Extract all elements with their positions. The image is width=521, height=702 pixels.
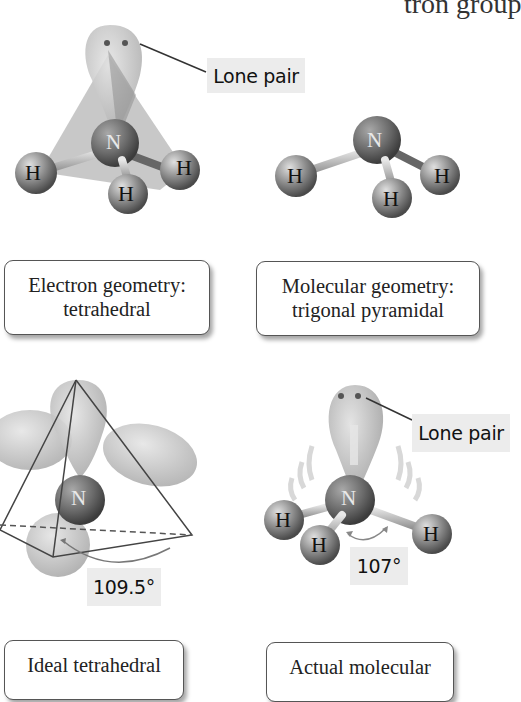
caption-electron-geometry: Electron geometry: tetrahedral xyxy=(4,260,210,335)
atom-label-h: H xyxy=(434,163,450,189)
atom-label-h: H xyxy=(383,186,399,212)
lone-pair-label: Lone pair xyxy=(207,58,305,93)
atom-label-h: H xyxy=(176,155,192,181)
bond-angle-label: 107° xyxy=(350,547,408,585)
atom-label-n: N xyxy=(71,486,86,511)
bond-angle-label: 109.5° xyxy=(87,568,161,606)
caption-line: tetrahedral xyxy=(5,297,209,321)
caption-line: Ideal tetrahedral xyxy=(5,653,183,677)
caption-line: Electron geometry: xyxy=(5,273,209,297)
caption-ideal-tetrahedral: Ideal tetrahedral xyxy=(4,640,184,700)
atom-label-n: N xyxy=(106,130,121,155)
atom-label-h: H xyxy=(287,163,303,189)
caption-line: trigonal pyramidal xyxy=(257,298,479,322)
atom-label-n: N xyxy=(341,486,356,511)
atom-label-h: H xyxy=(118,181,134,207)
caption-line: Molecular geometry: xyxy=(257,274,479,298)
caption-actual-molecular: Actual molecular xyxy=(266,642,454,702)
lone-pair-label: Lone pair xyxy=(412,414,510,452)
caption-line: Actual molecular xyxy=(267,655,453,679)
atom-label-h: H xyxy=(25,160,41,186)
caption-molecular-geometry: Molecular geometry: trigonal pyramidal xyxy=(256,261,480,336)
atom-label-h: H xyxy=(311,532,327,558)
atom-label-h: H xyxy=(423,521,439,547)
atom-label-h: H xyxy=(275,507,291,533)
atom-label-n: N xyxy=(367,128,382,153)
